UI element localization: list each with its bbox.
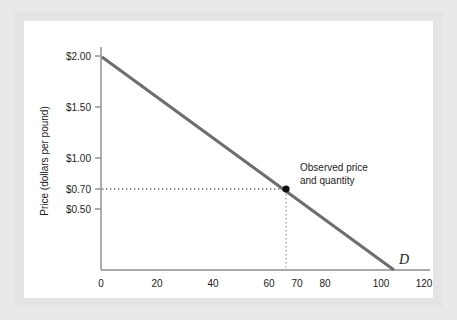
demand-curve-chart: $2.00 $1.50 $1.00 $0.70 $0.50 0 20 40 60… (24, 21, 433, 298)
x-tick-label-70: 70 (291, 278, 303, 289)
y-tick-label-150: $1.50 (66, 102, 91, 113)
x-tick-label-40: 40 (207, 278, 219, 289)
figure-canvas: $2.00 $1.50 $1.00 $0.70 $0.50 0 20 40 60… (24, 21, 433, 298)
observed-annotation-line2: and quantity (300, 175, 355, 186)
observed-point-marker (282, 185, 289, 192)
y-tick-label-050: $0.50 (66, 204, 91, 215)
x-tick-label-100: 100 (373, 278, 390, 289)
y-tick-label-200: $2.00 (66, 51, 91, 62)
x-tick-label-0: 0 (98, 278, 104, 289)
x-tick-label-120: 120 (416, 278, 433, 289)
x-axis-title: Quantity (pounds per person per year) (179, 297, 349, 298)
y-tick-label-070: $0.70 (66, 184, 91, 195)
x-tick-label-80: 80 (319, 278, 331, 289)
observed-annotation-line1: Observed price (300, 162, 368, 173)
y-axis-title: Price (dollars per pound) (39, 106, 50, 216)
x-tick-label-60: 60 (263, 278, 275, 289)
y-tick-label-100: $1.00 (66, 153, 91, 164)
figure-frame: $2.00 $1.50 $1.00 $0.70 $0.50 0 20 40 60… (14, 12, 443, 307)
demand-curve-label: D (398, 252, 409, 267)
x-tick-label-20: 20 (151, 278, 163, 289)
